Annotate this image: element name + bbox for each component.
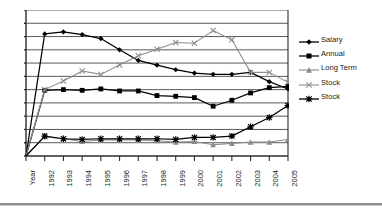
data-point-square: [117, 89, 122, 94]
data-point-square: [229, 98, 234, 103]
data-point-diamond: [192, 70, 197, 75]
legend-entry-stock-3[interactable]: Stock: [298, 76, 380, 90]
legend-marker-square-icon: [298, 48, 320, 60]
data-point-square: [307, 54, 312, 59]
data-point-diamond: [173, 67, 178, 72]
legend-marker-x-icon: [298, 77, 320, 89]
legend-marker-triangle-icon: [298, 62, 320, 74]
data-point-asterisk: [229, 133, 235, 139]
x-axis-label: 1997: [141, 170, 149, 187]
data-point-diamond: [61, 29, 66, 34]
legend-entry-annual-1[interactable]: Annual: [298, 47, 380, 61]
footer-divider-shadow: [0, 205, 382, 206]
data-point-square: [136, 89, 141, 94]
data-point-asterisk: [79, 136, 85, 142]
data-point-square: [98, 87, 103, 92]
x-axis-label: Year: [29, 170, 37, 185]
series-annual-1: [26, 84, 289, 156]
data-point-x: [61, 78, 66, 83]
data-point-asterisk: [98, 136, 104, 142]
data-point-asterisk: [191, 134, 197, 140]
data-point-diamond: [267, 79, 272, 84]
data-point-square: [192, 95, 197, 100]
data-point-asterisk: [247, 124, 253, 130]
data-point-asterisk: [154, 136, 160, 142]
data-point-asterisk: [306, 96, 313, 103]
data-point-asterisk: [135, 136, 141, 142]
data-series-group: [26, 28, 289, 156]
x-axis-label: 2001: [216, 170, 224, 187]
data-point-square: [248, 91, 253, 96]
data-point-square: [80, 88, 85, 93]
legend-label: Salary: [321, 36, 343, 44]
legend-marker-diamond-icon: [298, 34, 320, 46]
gridlines-group: [26, 10, 288, 143]
data-point-diamond: [42, 31, 47, 36]
line-chart-svg: [24, 10, 289, 168]
legend-label: Stock: [321, 79, 340, 87]
data-point-asterisk: [210, 134, 216, 140]
chart-plot-area: [24, 10, 289, 168]
chart-screenshot: Year199219931994199519961997199819992000…: [0, 0, 382, 215]
data-point-x: [211, 28, 216, 33]
x-axis-label: 2003: [254, 170, 262, 187]
data-point-asterisk: [42, 133, 48, 139]
x-axis-label: 1992: [48, 170, 56, 187]
data-point-square: [155, 93, 160, 98]
x-tick-marks: [26, 156, 288, 161]
data-point-square: [61, 87, 66, 92]
x-axis-label: 2002: [235, 170, 243, 187]
legend-label: Annual: [321, 50, 345, 58]
data-point-square: [267, 85, 272, 90]
legend-entry-salary-0[interactable]: Salary: [298, 33, 380, 47]
x-axis-label: 1994: [85, 170, 93, 187]
legend-marker-asterisk-icon: [298, 91, 320, 103]
data-point-x: [229, 37, 234, 42]
data-point-diamond: [306, 39, 311, 44]
data-point-asterisk: [266, 114, 272, 120]
data-point-square: [173, 94, 178, 99]
x-axis-label: 2000: [197, 170, 205, 187]
x-axis-label: 1993: [66, 170, 74, 187]
data-point-diamond: [136, 58, 141, 63]
x-axis-label: 1998: [160, 170, 168, 187]
series-line: [26, 106, 288, 156]
x-axis-label: 1996: [123, 170, 131, 187]
x-axis-label: 1999: [179, 170, 187, 187]
data-point-square: [211, 104, 216, 109]
legend-label: Stock: [321, 93, 340, 101]
data-point-x: [136, 53, 141, 58]
legend-label: Long Term: [321, 64, 357, 72]
legend-entry-stock-4[interactable]: Stock: [298, 90, 380, 104]
x-axis-label: 2005: [291, 170, 299, 187]
x-axis-label: 2004: [272, 170, 280, 187]
data-point-asterisk: [173, 136, 179, 142]
x-axis-label: 1995: [104, 170, 112, 187]
data-point-asterisk: [116, 136, 122, 142]
chart-legend: SalaryAnnualLong TermStockStock: [298, 33, 380, 104]
data-point-asterisk: [60, 136, 66, 142]
data-point-x: [154, 47, 159, 52]
legend-entry-long-term-2[interactable]: Long Term: [298, 61, 380, 75]
